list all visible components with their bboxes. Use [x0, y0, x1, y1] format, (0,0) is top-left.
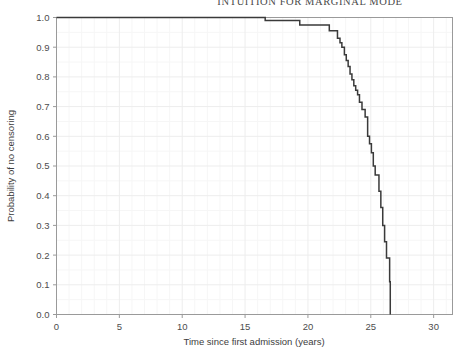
x-tick-label: 0	[54, 321, 59, 332]
y-tick-label: 1.0	[36, 12, 49, 23]
x-axis-title: Time since first admission (years)	[183, 336, 324, 347]
x-tick-label: 10	[177, 321, 188, 332]
y-tick-label: 0.7	[36, 101, 49, 112]
y-axis-ticks: 0.00.10.20.30.40.50.60.70.80.91.0	[36, 12, 56, 320]
x-tick-label: 20	[303, 321, 314, 332]
y-tick-label: 0.6	[36, 131, 49, 142]
y-tick-label: 0.5	[36, 160, 49, 171]
x-axis-ticks: 051015202530	[54, 315, 439, 332]
y-axis-title: Probability of no censoring	[5, 110, 16, 222]
x-tick-label: 5	[117, 321, 122, 332]
y-tick-label: 0.0	[36, 309, 49, 320]
censoring-survival-chart: 051015202530 0.00.10.20.30.40.50.60.70.8…	[0, 0, 470, 354]
y-tick-label: 0.8	[36, 71, 49, 82]
x-tick-label: 15	[240, 321, 251, 332]
x-tick-label: 30	[428, 321, 439, 332]
y-tick-label: 0.3	[36, 220, 49, 231]
x-tick-label: 25	[365, 321, 376, 332]
y-tick-label: 0.9	[36, 42, 49, 53]
figure-container: INTUITION FOR MARGINAL MODE 051015202530…	[0, 0, 470, 354]
y-tick-label: 0.4	[36, 190, 49, 201]
y-tick-label: 0.2	[36, 250, 49, 261]
y-tick-label: 0.1	[36, 279, 49, 290]
